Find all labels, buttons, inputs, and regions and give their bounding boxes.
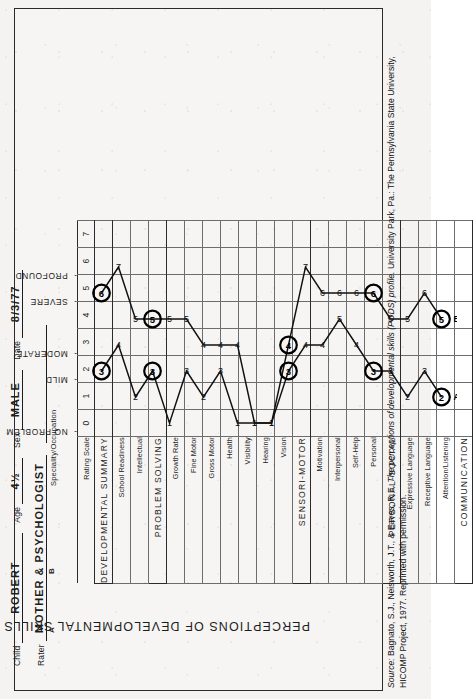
grid-cell[interactable] bbox=[94, 220, 112, 247]
grid-cell[interactable] bbox=[220, 301, 238, 328]
grid-cell[interactable] bbox=[328, 328, 346, 355]
grid-cell[interactable] bbox=[436, 274, 454, 301]
grid-cell[interactable] bbox=[256, 274, 274, 301]
rater-value[interactable]: MOTHER & PSYCHOLOGIST bbox=[33, 455, 47, 641]
grid-cell[interactable] bbox=[130, 274, 148, 301]
grid-cell[interactable] bbox=[292, 382, 310, 409]
grid-cell[interactable] bbox=[274, 382, 292, 409]
grid-cell[interactable] bbox=[94, 355, 112, 382]
grid-cell[interactable] bbox=[94, 274, 112, 301]
grid-cell[interactable] bbox=[292, 220, 310, 247]
grid-cell[interactable] bbox=[346, 247, 364, 274]
grid-cell[interactable] bbox=[292, 328, 310, 355]
grid-cell[interactable] bbox=[436, 355, 454, 382]
grid-cell[interactable] bbox=[238, 274, 256, 301]
grid-cell[interactable] bbox=[346, 382, 364, 409]
grid-cell[interactable] bbox=[364, 301, 382, 328]
grid-cell[interactable] bbox=[112, 328, 130, 355]
grid-cell[interactable] bbox=[184, 247, 202, 274]
grid-cell[interactable] bbox=[112, 301, 130, 328]
grid-cell[interactable] bbox=[436, 220, 454, 247]
grid-cell[interactable] bbox=[346, 409, 364, 436]
grid-cell[interactable] bbox=[454, 274, 472, 301]
grid-cell[interactable] bbox=[364, 328, 382, 355]
grid-cell[interactable] bbox=[328, 355, 346, 382]
grid-cell[interactable] bbox=[238, 328, 256, 355]
grid-cell[interactable] bbox=[148, 355, 166, 382]
grid-cell[interactable] bbox=[238, 382, 256, 409]
grid-cell[interactable] bbox=[184, 328, 202, 355]
grid-cell[interactable] bbox=[166, 355, 184, 382]
grid-cell[interactable] bbox=[130, 220, 148, 247]
grid-cell[interactable] bbox=[220, 355, 238, 382]
grid-cell[interactable] bbox=[220, 409, 238, 436]
grid-cell[interactable] bbox=[274, 301, 292, 328]
grid-cell[interactable] bbox=[328, 409, 346, 436]
grid-cell[interactable] bbox=[148, 247, 166, 274]
grid-cell[interactable] bbox=[274, 328, 292, 355]
grid-cell[interactable] bbox=[310, 355, 328, 382]
grid-cell[interactable] bbox=[256, 301, 274, 328]
grid-cell[interactable] bbox=[292, 301, 310, 328]
grid-cell[interactable] bbox=[130, 382, 148, 409]
grid-cell[interactable] bbox=[94, 328, 112, 355]
grid-cell[interactable] bbox=[274, 274, 292, 301]
grid-cell[interactable] bbox=[292, 274, 310, 301]
grid-cell[interactable] bbox=[220, 220, 238, 247]
grid-cell[interactable] bbox=[274, 247, 292, 274]
grid-cell[interactable] bbox=[310, 409, 328, 436]
grid-cell[interactable] bbox=[238, 301, 256, 328]
grid-cell[interactable] bbox=[346, 301, 364, 328]
grid-cell[interactable] bbox=[454, 247, 472, 274]
grid-cell[interactable] bbox=[202, 355, 220, 382]
grid-cell[interactable] bbox=[220, 328, 238, 355]
grid-cell[interactable] bbox=[256, 409, 274, 436]
grid-cell[interactable] bbox=[454, 409, 472, 436]
grid-cell[interactable] bbox=[166, 301, 184, 328]
grid-cell[interactable] bbox=[202, 301, 220, 328]
grid-cell[interactable] bbox=[256, 382, 274, 409]
grid-cell[interactable] bbox=[328, 274, 346, 301]
grid-cell[interactable] bbox=[202, 247, 220, 274]
grid-cell[interactable] bbox=[166, 247, 184, 274]
grid-cell[interactable] bbox=[94, 409, 112, 436]
grid-cell[interactable] bbox=[130, 355, 148, 382]
grid-cell[interactable] bbox=[130, 247, 148, 274]
grid-cell[interactable] bbox=[238, 247, 256, 274]
grid-cell[interactable] bbox=[184, 301, 202, 328]
grid-cell[interactable] bbox=[202, 328, 220, 355]
grid-cell[interactable] bbox=[328, 382, 346, 409]
grid-cell[interactable] bbox=[292, 355, 310, 382]
grid-cell[interactable] bbox=[94, 301, 112, 328]
grid-cell[interactable] bbox=[364, 247, 382, 274]
grid-cell[interactable] bbox=[166, 382, 184, 409]
grid-cell[interactable] bbox=[238, 409, 256, 436]
grid-cell[interactable] bbox=[310, 247, 328, 274]
grid-cell[interactable] bbox=[310, 301, 328, 328]
grid-cell[interactable] bbox=[112, 409, 130, 436]
grid-cell[interactable] bbox=[166, 220, 184, 247]
grid-cell[interactable] bbox=[256, 328, 274, 355]
grid-cell[interactable] bbox=[436, 328, 454, 355]
grid-cell[interactable] bbox=[112, 247, 130, 274]
grid-cell[interactable] bbox=[346, 355, 364, 382]
grid-cell[interactable] bbox=[274, 220, 292, 247]
grid-cell[interactable] bbox=[148, 382, 166, 409]
grid-cell[interactable] bbox=[454, 328, 472, 355]
grid-cell[interactable] bbox=[112, 355, 130, 382]
grid-cell[interactable] bbox=[112, 220, 130, 247]
grid-cell[interactable] bbox=[274, 409, 292, 436]
age-value[interactable]: 4½ bbox=[9, 457, 23, 503]
grid-cell[interactable] bbox=[202, 274, 220, 301]
grid-cell[interactable] bbox=[166, 409, 184, 436]
grid-cell[interactable] bbox=[310, 220, 328, 247]
grid-cell[interactable] bbox=[184, 220, 202, 247]
grid-cell[interactable] bbox=[310, 382, 328, 409]
grid-cell[interactable] bbox=[202, 220, 220, 247]
grid-cell[interactable] bbox=[148, 328, 166, 355]
grid-cell[interactable] bbox=[436, 247, 454, 274]
grid-cell[interactable] bbox=[220, 274, 238, 301]
grid-cell[interactable] bbox=[274, 355, 292, 382]
grid-cell[interactable] bbox=[94, 247, 112, 274]
grid-cell[interactable] bbox=[454, 301, 472, 328]
